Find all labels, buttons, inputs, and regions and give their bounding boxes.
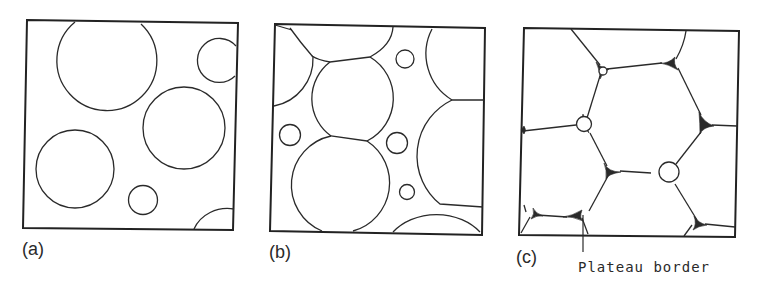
panel-a-frame (23, 20, 238, 230)
bubble (194, 208, 234, 229)
panel-b (270, 24, 485, 235)
panel-b-frame (270, 24, 485, 235)
panel-a-label: (a) (22, 240, 44, 258)
small-bubble (280, 125, 301, 146)
bubble (274, 28, 313, 106)
bubble (417, 100, 483, 207)
small-bubble (387, 133, 408, 154)
bubble (291, 136, 389, 231)
small-bubble (599, 67, 607, 75)
small-bubble (659, 162, 679, 182)
plateau-border-annotation: Plateau border (578, 260, 710, 274)
bubble (129, 186, 158, 215)
bubble (143, 87, 225, 169)
bubble (36, 130, 114, 208)
film (275, 25, 292, 30)
bubble (312, 27, 393, 62)
foam-films (521, 29, 737, 236)
panel-a (23, 20, 238, 230)
small-bubble (577, 117, 592, 132)
panel-b-label: (b) (269, 243, 291, 261)
panel-c-label: (c) (516, 248, 537, 266)
panel-c-frame (519, 28, 739, 237)
bubble (197, 38, 236, 82)
foam-structure-figure: (a) (b) (c) Plateau border (0, 0, 757, 286)
bubble (312, 57, 394, 141)
bubble (393, 215, 480, 232)
small-bubble (400, 185, 415, 200)
small-bubble (396, 50, 414, 68)
bubble (426, 29, 484, 100)
panel-c (519, 28, 739, 252)
panel-a-drawing (0, 0, 757, 286)
bubble (57, 22, 157, 111)
